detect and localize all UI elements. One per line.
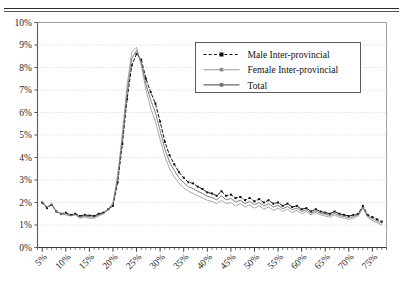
x-axis-tick-label: 60% <box>289 252 308 271</box>
y-axis-tick-label: 6% <box>19 108 32 118</box>
legend-label: Total <box>248 80 268 91</box>
y-axis-tick-label: 8% <box>19 63 32 73</box>
legend-label: Female Inter-provincial <box>248 64 339 75</box>
y-axis-tick-label: 9% <box>19 40 32 50</box>
legend-label: Male Inter-provincial <box>248 49 330 60</box>
x-axis-tick-label: 5% <box>33 252 49 268</box>
y-axis-tick-label: 0% <box>19 243 32 253</box>
chart-figure: 0%1%2%3%4%5%6%7%8%9%10% 5%10%15%20%25%30… <box>0 0 403 286</box>
x-axis-ticks: 5%10%15%20%25%30%35%40%45%50%55%60%65%70… <box>33 248 386 272</box>
x-axis-tick-label: 35% <box>171 252 190 271</box>
x-axis-tick-label: 25% <box>124 252 143 271</box>
x-axis-tick-label: 45% <box>218 252 237 271</box>
x-axis-tick-label: 20% <box>100 252 119 271</box>
y-axis-tick-label: 10% <box>15 18 33 28</box>
y-axis-tick-label: 2% <box>19 198 32 208</box>
chart-legend: Male Inter-provincialFemale Inter-provin… <box>196 43 361 93</box>
x-axis-tick-label: 65% <box>313 252 332 271</box>
x-axis-tick-label: 75% <box>360 252 379 271</box>
x-axis-tick-label: 30% <box>148 252 167 271</box>
x-axis-tick-label: 15% <box>77 252 96 271</box>
x-axis-tick-label: 50% <box>242 252 261 271</box>
x-axis-tick-label: 40% <box>195 252 214 271</box>
y-axis-tick-label: 3% <box>19 175 32 185</box>
y-axis-tick-label: 7% <box>19 85 32 95</box>
y-axis-tick-label: 4% <box>19 153 32 163</box>
x-axis-tick-label: 10% <box>53 252 72 271</box>
y-axis-tick-label: 5% <box>19 130 32 140</box>
x-axis-tick-label: 70% <box>336 252 355 271</box>
x-axis-tick-label: 55% <box>266 252 285 271</box>
y-axis-ticks: 0%1%2%3%4%5%6%7%8%9%10% <box>15 18 38 253</box>
y-axis-tick-label: 1% <box>19 220 32 230</box>
